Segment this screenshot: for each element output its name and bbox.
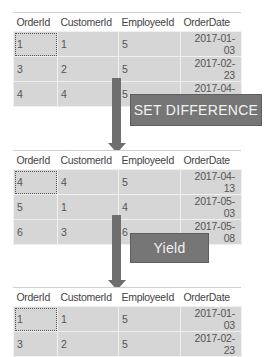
cell[interactable]: 5 xyxy=(119,307,181,332)
column-header: OrderId xyxy=(14,288,58,307)
cell[interactable]: 5 xyxy=(119,332,181,357)
cell[interactable]: 5 xyxy=(119,57,181,82)
arrow-shaft xyxy=(112,78,121,144)
cell[interactable]: 2017-05-03 xyxy=(181,195,242,220)
cell[interactable]: 2017-01-03 xyxy=(181,32,242,57)
cell[interactable]: 2017-02-23 xyxy=(181,57,242,82)
table-row: 3 2 5 2017-02-23 xyxy=(14,57,242,82)
column-header: EmployeeId xyxy=(119,13,181,32)
column-header: CustomerId xyxy=(58,288,119,307)
column-header: OrderId xyxy=(14,151,58,170)
cell[interactable]: 1 xyxy=(58,32,119,57)
cell[interactable]: 1 xyxy=(58,307,119,332)
column-header: CustomerId xyxy=(58,13,119,32)
set-difference-label: SET DIFFERENCE xyxy=(130,94,262,126)
cell[interactable]: 5 xyxy=(119,170,181,195)
column-header: EmployeeId xyxy=(119,288,181,307)
column-header: EmployeeId xyxy=(119,151,181,170)
column-header: OrderId xyxy=(14,13,58,32)
table-row: 1 1 5 2017-01-03 xyxy=(14,32,242,57)
input-table-b: OrderId CustomerId EmployeeId OrderDate … xyxy=(13,150,241,245)
cell[interactable]: 4 xyxy=(58,170,119,195)
header-row: OrderId CustomerId EmployeeId OrderDate xyxy=(14,151,242,170)
cell[interactable]: 6 xyxy=(14,220,58,245)
cell[interactable]: 2 xyxy=(58,57,119,82)
cell[interactable]: 2017-01-03 xyxy=(181,307,242,332)
cell[interactable]: 1 xyxy=(14,32,58,57)
cell[interactable]: 1 xyxy=(58,195,119,220)
cell[interactable]: 2 xyxy=(58,332,119,357)
result-table: OrderId CustomerId EmployeeId OrderDate … xyxy=(13,287,241,357)
table-row: 3 2 5 2017-02-23 xyxy=(14,332,242,357)
column-header: OrderDate xyxy=(181,288,242,307)
column-header: OrderDate xyxy=(181,151,242,170)
cell[interactable]: 3 xyxy=(14,57,58,82)
arrow-shaft xyxy=(112,215,121,281)
cell[interactable]: 2017-02-23 xyxy=(181,332,242,357)
table-row: 4 4 5 2017-04-13 xyxy=(14,170,242,195)
column-header: OrderDate xyxy=(181,13,242,32)
cell[interactable]: 1 xyxy=(14,307,58,332)
table-row: 5 1 4 2017-05-03 xyxy=(14,195,242,220)
yield-label: Yield xyxy=(130,233,209,263)
cell[interactable]: 5 xyxy=(119,32,181,57)
cell[interactable]: 4 xyxy=(119,195,181,220)
column-header: CustomerId xyxy=(58,151,119,170)
table-row: 1 1 5 2017-01-03 xyxy=(14,307,242,332)
cell[interactable]: 2017-04-13 xyxy=(181,170,242,195)
cell[interactable]: 4 xyxy=(58,82,119,107)
input-table-a: OrderId CustomerId EmployeeId OrderDate … xyxy=(13,12,241,107)
cell[interactable]: 3 xyxy=(58,220,119,245)
cell[interactable]: 4 xyxy=(14,170,58,195)
cell[interactable]: 3 xyxy=(14,332,58,357)
cell[interactable]: 5 xyxy=(14,195,58,220)
cell[interactable]: 4 xyxy=(14,82,58,107)
header-row: OrderId CustomerId EmployeeId OrderDate xyxy=(14,13,242,32)
header-row: OrderId CustomerId EmployeeId OrderDate xyxy=(14,288,242,307)
